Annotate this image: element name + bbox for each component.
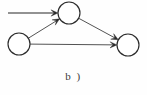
edge-left-to-top <box>28 19 59 38</box>
figure-container: b ) <box>0 0 147 95</box>
edge-left-to-top-arrowhead <box>52 19 60 25</box>
graph-node-left[interactable] <box>8 33 30 55</box>
graph-node-top[interactable] <box>58 2 80 24</box>
entry-arrow-top <box>8 10 58 16</box>
edge-left-to-right-line <box>30 44 115 45</box>
edge-top-to-right <box>79 18 119 40</box>
edge-left-to-top-line <box>28 20 57 38</box>
figure-caption: b ) <box>0 70 147 82</box>
edge-left-to-right <box>30 42 117 48</box>
edge-top-to-right-line <box>79 18 117 38</box>
graph-node-right[interactable] <box>117 34 139 56</box>
